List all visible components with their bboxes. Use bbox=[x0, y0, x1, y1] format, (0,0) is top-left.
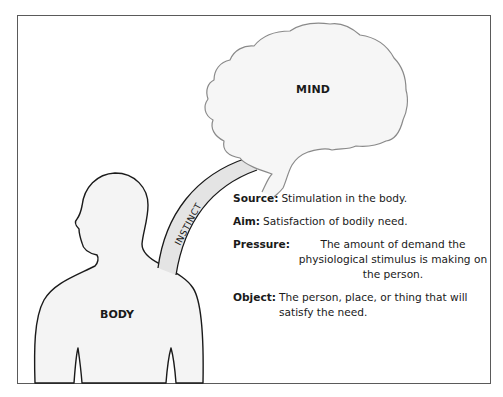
definition-pressure: Pressure: The amount of demand the physi… bbox=[233, 237, 493, 282]
definition-description: The person, place, or thing that will sa… bbox=[279, 290, 493, 320]
mind-label: MIND bbox=[296, 83, 330, 96]
definition-description: Satisfaction of bodily need. bbox=[263, 214, 407, 229]
definition-object: Object: The person, place, or thing that… bbox=[233, 290, 493, 320]
definition-term: Source: bbox=[233, 191, 278, 206]
definition-description: Stimulation in the body. bbox=[281, 191, 407, 206]
definition-description: The amount of demand the physiological s… bbox=[293, 237, 493, 282]
definition-source: Source: Stimulation in the body. bbox=[233, 191, 493, 206]
instinct-definitions: Source: Stimulation in the body. Aim: Sa… bbox=[233, 191, 493, 328]
definition-term: Aim: bbox=[233, 214, 260, 229]
definition-aim: Aim: Satisfaction of bodily need. bbox=[233, 214, 493, 229]
body-silhouette bbox=[35, 173, 204, 383]
definition-term: Pressure: bbox=[233, 237, 290, 282]
body-label: BODY bbox=[100, 308, 134, 321]
definition-term: Object: bbox=[233, 290, 276, 320]
diagram-canvas: INSTINCT MIND BODY Source: Stimulation i… bbox=[0, 0, 503, 397]
